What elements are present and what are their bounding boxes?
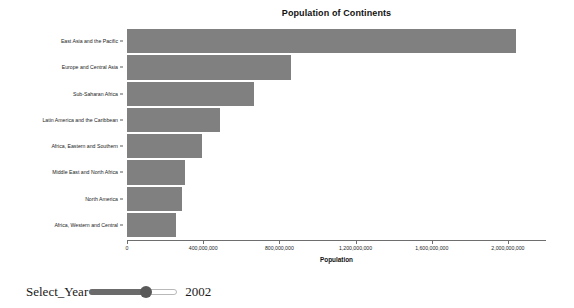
- y-axis-tick: [120, 119, 123, 120]
- x-axis-tick: [356, 240, 357, 244]
- bar-row: [127, 212, 546, 238]
- select-year-slider[interactable]: Select_Year 2002: [26, 281, 211, 303]
- bar: [127, 187, 182, 211]
- x-axis-tick-label: 800,000,000: [265, 245, 294, 251]
- y-axis-tick: [120, 41, 123, 42]
- bar: [127, 108, 220, 132]
- x-axis-tick-label: 1,200,000,000: [339, 245, 372, 251]
- bar: [127, 134, 202, 158]
- x-axis-tick: [508, 240, 509, 244]
- slider-value-label: 2002: [185, 284, 211, 300]
- x-axis-tick: [279, 240, 280, 244]
- population-bar-chart: Population of Continents East Asia and t…: [0, 0, 574, 275]
- y-axis-tick-label: Middle East and North Africa: [52, 169, 118, 175]
- y-axis-tick: [120, 93, 123, 94]
- bar-row: [127, 54, 546, 80]
- bar-row: [127, 133, 546, 159]
- bar-row: [127, 81, 546, 107]
- y-axis-tick: [120, 67, 123, 68]
- x-axis-tick-label: 1,600,000,000: [415, 245, 448, 251]
- x-axis-line: [127, 240, 546, 241]
- bar-row: [127, 107, 546, 133]
- bar-row: [127, 28, 546, 54]
- y-axis-tick-label: Sub-Saharan Africa: [73, 91, 118, 97]
- y-axis-tick-label: East Asia and the Pacific: [61, 38, 118, 44]
- x-axis-tick: [432, 240, 433, 244]
- bar: [127, 160, 185, 184]
- x-axis-tick-label: 0: [126, 245, 129, 251]
- x-axis-tick-label: 400,000,000: [189, 245, 218, 251]
- bar: [127, 55, 291, 79]
- x-axis-tick: [127, 240, 128, 244]
- y-axis: East Asia and the PacificEurope and Cent…: [0, 28, 123, 238]
- y-axis-tick: [120, 172, 123, 173]
- x-axis-title: Population: [127, 256, 546, 263]
- slider-label: Select_Year: [26, 284, 88, 300]
- y-axis-tick: [120, 224, 123, 225]
- bar-row: [127, 186, 546, 212]
- chart-title: Population of Continents: [127, 8, 546, 18]
- slider-track[interactable]: [89, 285, 177, 299]
- y-axis-tick-label: Africa, Western and Central: [54, 222, 118, 228]
- y-axis-tick-label: Latin America and the Caribbean: [42, 117, 118, 123]
- x-axis-tick: [203, 240, 204, 244]
- bar: [127, 29, 516, 53]
- bar: [127, 213, 176, 237]
- y-axis-tick: [120, 198, 123, 199]
- y-axis-tick-label: Europe and Central Asia: [62, 64, 118, 70]
- y-axis-tick: [120, 146, 123, 147]
- slider-handle[interactable]: [140, 286, 152, 298]
- bar-row: [127, 159, 546, 185]
- y-axis-tick-label: North America: [85, 196, 118, 202]
- slider-track-fill: [89, 289, 146, 295]
- plot-area: [127, 28, 546, 238]
- bar: [127, 82, 254, 106]
- y-axis-tick-label: Africa, Eastern and Southern: [51, 143, 118, 149]
- x-axis-tick-label: 2,000,000,000: [491, 245, 524, 251]
